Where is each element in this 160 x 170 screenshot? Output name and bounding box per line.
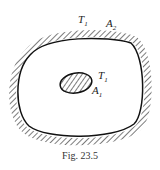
inner-area-label: A1	[92, 85, 102, 99]
inner-temperature-label: T1	[98, 70, 108, 84]
outer-area-label: A2	[106, 18, 116, 32]
figure-caption: Fig. 23.5	[0, 150, 160, 161]
outer-temperature-label: T1	[78, 14, 88, 28]
